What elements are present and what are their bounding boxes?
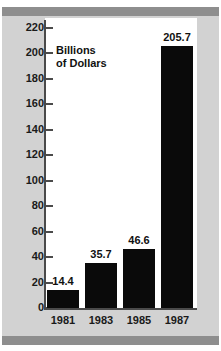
bar	[123, 249, 155, 308]
bar	[85, 263, 117, 308]
bar-series	[0, 0, 221, 308]
bar	[161, 46, 193, 308]
chart-figure: 020406080100120140160180200220 Billions …	[0, 0, 221, 351]
bar-value-label: 46.6	[117, 235, 161, 246]
bar-value-label: 14.4	[41, 276, 85, 287]
bar-value-label: 205.7	[155, 32, 199, 43]
bar-value-label: 35.7	[79, 249, 123, 260]
bottom-band	[2, 336, 219, 345]
x-axis-line	[44, 308, 197, 310]
bar	[47, 290, 79, 308]
x-category-label: 1987	[155, 314, 199, 326]
